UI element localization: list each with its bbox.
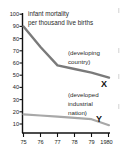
series-marker-y: Y — [96, 114, 102, 124]
y-tick-label-50: 50 — [13, 72, 19, 78]
x-tick-label-77: 77 — [54, 139, 60, 145]
y-tick-label-90: 90 — [13, 23, 19, 29]
y-tick-label-60: 60 — [13, 60, 19, 66]
y-tick-label-40: 40 — [13, 84, 19, 90]
x-tick-label-78: 78 — [71, 139, 77, 145]
annotation-developed-line-2: industrial — [68, 100, 93, 107]
y-tick-label-10: 10 — [13, 121, 19, 127]
chart-canvas: 100 90 80 70 60 50 40 30 20 10 75 76 77 … — [0, 0, 122, 162]
x-tick-label-75: 75 — [20, 139, 26, 145]
y-tick-label-80: 80 — [13, 36, 19, 42]
annotation-developed-line-3: nation) — [68, 109, 87, 116]
x-tick-label-1980: 1980 — [100, 139, 112, 145]
y-tick-label-20: 20 — [13, 109, 19, 115]
annotation-developing-line-1: (developing — [68, 49, 101, 56]
series-marker-x: X — [101, 79, 107, 89]
infant-mortality-chart: 100 90 80 70 60 50 40 30 20 10 75 76 77 … — [0, 0, 122, 162]
y-tick-label-70: 70 — [13, 48, 19, 54]
chart-title-line-2: per thousand live births — [28, 19, 93, 27]
x-tick-label-79: 79 — [88, 139, 94, 145]
chart-title-line-1: infant mortality — [28, 10, 70, 18]
x-tick-label-76: 76 — [37, 139, 43, 145]
annotation-developed-line-1: (developed — [68, 91, 99, 98]
y-tick-label-100: 100 — [10, 11, 19, 17]
y-tick-label-30: 30 — [13, 97, 19, 103]
annotation-developing-line-2: country) — [68, 58, 90, 65]
